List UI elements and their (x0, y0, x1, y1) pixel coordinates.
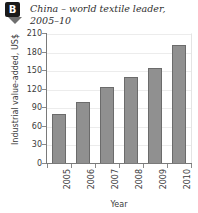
bar-2007 (100, 87, 114, 164)
y-axis-tick-label: 30 (32, 140, 42, 149)
y-axis-tick-labels: 0306090120150180210 (14, 33, 42, 163)
gridline (47, 108, 191, 109)
plot-area (47, 33, 192, 164)
x-axis-tick-mark (143, 164, 144, 168)
x-axis-tick-label: 2006 (87, 169, 96, 189)
y-axis-tick-label: 150 (27, 66, 42, 75)
bar-2008 (124, 77, 138, 164)
badge-letter: B (5, 2, 20, 17)
y-axis-tick-label: 180 (27, 47, 42, 56)
chart-title: China – world textile leader, 2005–10 (30, 3, 195, 27)
x-axis-tick-mark (47, 164, 48, 168)
chart-plot: Industrial value-added, US$ 030609012015… (0, 33, 198, 213)
figure-badge: B (5, 2, 25, 28)
y-axis-tick-label: 60 (32, 121, 42, 130)
x-axis-tick-label: 2008 (135, 169, 144, 189)
x-axis-tick-mark (71, 164, 72, 168)
bar-2005 (52, 114, 66, 164)
x-axis-tick-mark (167, 164, 168, 168)
x-axis-tick-mark (191, 164, 192, 168)
x-axis-tick-mark (95, 164, 96, 168)
triangle-down-icon (8, 17, 22, 24)
x-axis-tick-label: 2007 (111, 169, 120, 189)
gridline (47, 127, 191, 128)
x-axis-tick-mark (119, 164, 120, 168)
bar-2006 (76, 102, 90, 164)
bar-2009 (148, 68, 162, 164)
y-axis-tick-label: 120 (27, 84, 42, 93)
gridline (47, 53, 191, 54)
gridline (47, 34, 191, 35)
x-axis-tick-label: 2005 (63, 169, 72, 189)
figure-header: B China – world textile leader, 2005–10 (0, 0, 198, 32)
x-axis-tick-label: 2010 (183, 169, 192, 189)
x-axis-label: Year (47, 200, 191, 209)
gridline (47, 145, 191, 146)
gridline (47, 90, 191, 91)
x-axis-tick-labels: 200520062007200820092010 (47, 169, 191, 199)
y-axis-tick-label: 210 (27, 29, 42, 38)
bar-2010 (172, 45, 186, 164)
y-axis-tick-label: 90 (32, 103, 42, 112)
x-axis-tick-label: 2009 (159, 169, 168, 189)
gridline (47, 71, 191, 72)
